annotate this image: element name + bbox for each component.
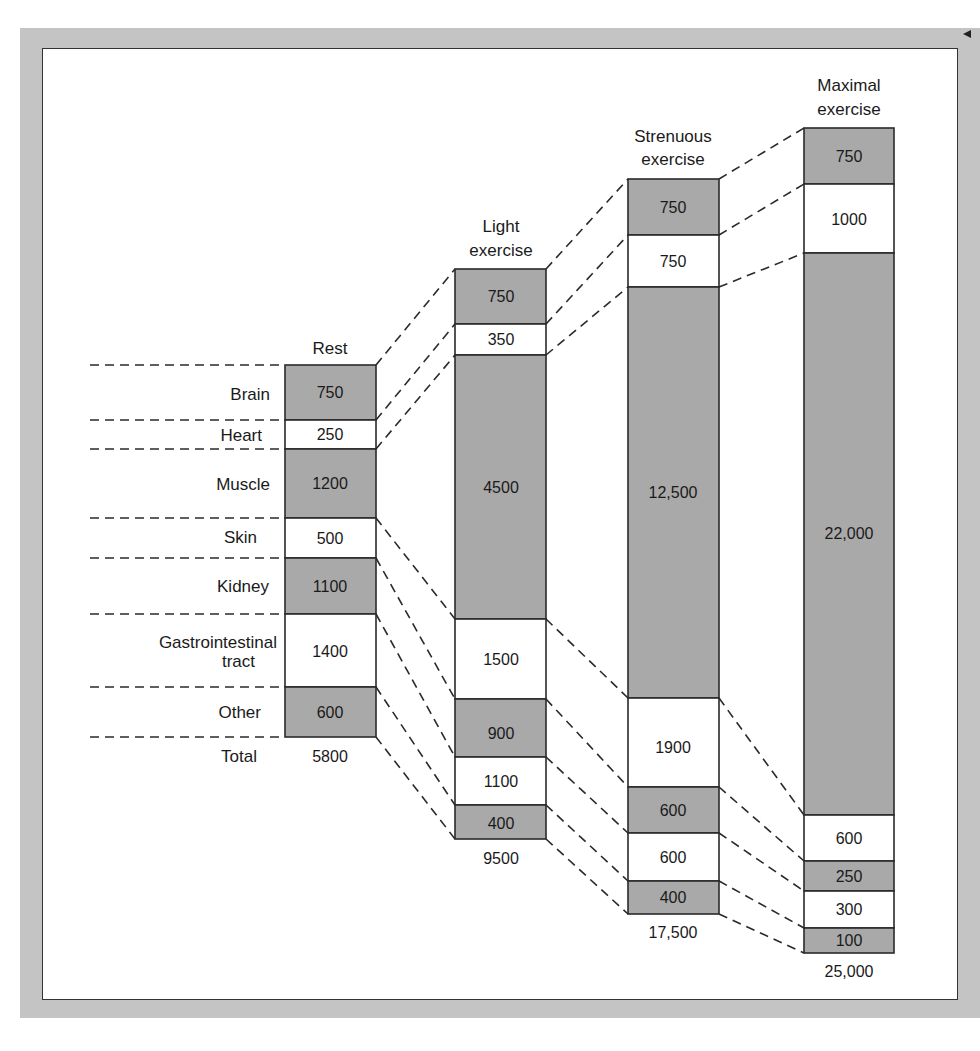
row-guide-lines [90, 365, 285, 737]
svg-text:1100: 1100 [484, 773, 519, 790]
label-skin: Skin [224, 528, 257, 547]
total-maximal: 25,000 [825, 963, 874, 980]
title-rest: Rest [313, 339, 348, 358]
svg-text:750: 750 [317, 384, 344, 401]
total-strenuous: 17,500 [649, 924, 698, 941]
title-maximal-line1: Maximal [817, 76, 880, 95]
svg-text:250: 250 [836, 868, 863, 885]
svg-text:100: 100 [836, 932, 863, 949]
svg-text:750: 750 [660, 253, 687, 270]
title-maximal-line2: exercise [817, 100, 880, 119]
label-heart: Heart [220, 426, 262, 445]
label-gi-line2: tract [222, 652, 255, 671]
svg-text:400: 400 [488, 815, 515, 832]
label-brain: Brain [230, 385, 270, 404]
column-light [455, 269, 546, 839]
svg-text:1200: 1200 [312, 475, 348, 492]
label-other: Other [218, 703, 261, 722]
row-labels: Brain Heart Muscle Skin Kidney Gastroint… [159, 385, 277, 766]
title-strenuous-line2: exercise [641, 150, 704, 169]
svg-text:600: 600 [317, 704, 344, 721]
svg-text:600: 600 [660, 802, 687, 819]
svg-text:1100: 1100 [313, 578, 348, 595]
svg-text:4500: 4500 [483, 479, 519, 496]
total-light: 9500 [483, 850, 519, 867]
svg-text:750: 750 [488, 288, 515, 305]
connector-lines [376, 128, 804, 953]
svg-text:12,500: 12,500 [649, 484, 698, 501]
label-muscle: Muscle [216, 475, 270, 494]
segment-values: 750 250 1200 500 1100 1400 600 5800 750 … [312, 148, 873, 980]
svg-text:600: 600 [660, 849, 687, 866]
svg-text:750: 750 [836, 148, 863, 165]
svg-text:1400: 1400 [312, 643, 348, 660]
label-total: Total [221, 747, 257, 766]
total-rest: 5800 [312, 748, 348, 765]
title-light-line2: exercise [469, 241, 532, 260]
svg-text:900: 900 [488, 725, 515, 742]
svg-text:250: 250 [317, 426, 344, 443]
label-gi-line1: Gastrointestinal [159, 633, 277, 652]
svg-text:1000: 1000 [831, 211, 867, 228]
title-light-line1: Light [483, 217, 520, 236]
column-titles: Rest Light exercise Strenuous exercise M… [313, 76, 881, 358]
svg-text:600: 600 [836, 830, 863, 847]
title-strenuous-line1: Strenuous [634, 127, 712, 146]
svg-text:1900: 1900 [655, 739, 691, 756]
svg-text:750: 750 [660, 199, 687, 216]
svg-text:1500: 1500 [483, 651, 519, 668]
svg-text:22,000: 22,000 [825, 525, 874, 542]
label-kidney: Kidney [217, 577, 269, 596]
svg-text:300: 300 [836, 901, 863, 918]
svg-text:400: 400 [660, 889, 687, 906]
svg-text:500: 500 [317, 530, 344, 547]
column-rest [285, 365, 376, 737]
svg-text:350: 350 [488, 331, 515, 348]
